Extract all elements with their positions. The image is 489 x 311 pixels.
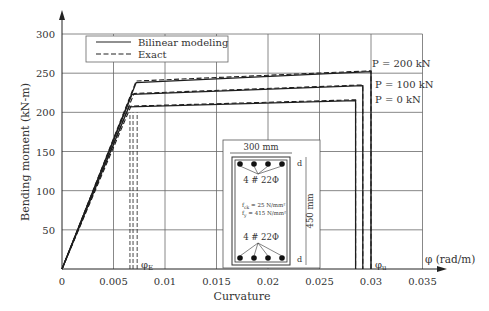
inset-bottom-cover-label: d [297, 255, 302, 264]
x-tick-label: 0.01 [154, 276, 176, 287]
inset-top-cover-label: d [297, 159, 302, 168]
y-tick-label: 250 [36, 68, 55, 79]
rebar-dot [279, 161, 285, 167]
rebar-dot [237, 255, 243, 261]
inset-height-label: 450 mm [305, 193, 315, 228]
legend: Bilinear modeling Exact [86, 36, 229, 62]
y-axis-label: Bending moment (kN-m) [19, 83, 32, 221]
rebar-dot [251, 255, 257, 261]
legend-dashed-label: Exact [138, 49, 167, 60]
annotation-phi-e: φE [141, 259, 153, 272]
moment-curvature-chart: 00.0050.010.0150.020.0250.030.0355010015… [0, 0, 489, 311]
y-tick-label: 150 [36, 147, 55, 158]
inset-bottom-rebar-label: 4 # 22Φ [243, 232, 279, 242]
annotation-phi-u: φu [375, 259, 387, 272]
annotation-p0: P = 0 kN [375, 94, 421, 105]
rebar-dot [265, 161, 271, 167]
x-tick-label: 0 [59, 276, 65, 287]
x-axis-symbol: φ (rad/m) [425, 253, 475, 265]
x-tick-label: 0.005 [99, 276, 128, 287]
annotation-p200: P = 200 kN [372, 58, 431, 69]
y-tick-label: 50 [42, 225, 55, 236]
x-axis-label: Curvature [214, 290, 271, 303]
x-tick-label: 0.02 [257, 276, 279, 287]
rebar-dot [237, 161, 243, 167]
y-axis-arrow-icon [59, 10, 65, 20]
x-tick-label: 0.035 [408, 276, 437, 287]
inset-top-rebar-label: 4 # 22Φ [243, 175, 279, 185]
rebar-dot [279, 255, 285, 261]
x-axis-arrow-icon [437, 266, 447, 272]
x-tick-label: 0.025 [305, 276, 334, 287]
x-tick-label: 0.015 [202, 276, 231, 287]
x-tick-label: 0.03 [360, 276, 382, 287]
y-tick-label: 300 [36, 29, 55, 40]
y-tick-label: 200 [36, 107, 55, 118]
legend-solid-label: Bilinear modeling [138, 37, 229, 48]
rebar-dot [265, 255, 271, 261]
rebar-dot [251, 161, 257, 167]
annotation-p100: P = 100 kN [375, 79, 434, 90]
y-tick-label: 100 [36, 186, 55, 197]
cross-section-inset: 300 mm 450 mm d d 4 # 22Φ fck = 25 N/mm²… [223, 140, 320, 268]
inset-width-label: 300 mm [243, 142, 278, 152]
